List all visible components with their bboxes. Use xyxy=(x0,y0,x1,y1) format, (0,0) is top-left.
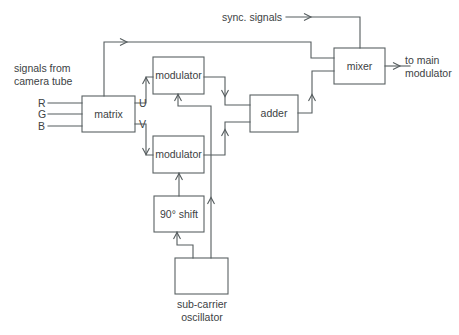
label-sync-signals: sync. signals xyxy=(222,11,282,24)
label-input-b: B xyxy=(38,120,45,132)
label-input-g: G xyxy=(38,108,46,120)
diagram-wiring xyxy=(0,0,459,335)
label-source-caption-line2: camera tube xyxy=(14,75,72,88)
label-output-line1: to main xyxy=(405,54,439,67)
wire-sync-signals-to-mixer xyxy=(286,17,360,48)
block-90-shift[interactable] xyxy=(154,196,204,232)
block-adder[interactable] xyxy=(250,95,298,132)
label-source-caption-line1: signals from xyxy=(14,62,71,75)
block-diagram-canvas: matrix modulator modulator adder mixer 9… xyxy=(0,0,459,335)
label-oscillator-line1: sub-carrier xyxy=(171,298,233,311)
label-signal-u: U xyxy=(139,97,147,109)
label-output-line2: modulator xyxy=(405,67,452,80)
wire-modulator-u-to-adder xyxy=(204,77,250,105)
wire-mixer-feedback-to-matrix xyxy=(104,42,334,96)
wire-oscillator-to-modulator-u xyxy=(178,94,211,258)
block-modulator-u[interactable] xyxy=(153,57,204,94)
block-modulator-v[interactable] xyxy=(153,136,204,173)
block-mixer[interactable] xyxy=(334,48,385,84)
block-matrix[interactable] xyxy=(82,96,135,132)
wire-adder-to-mixer xyxy=(298,71,334,113)
block-sub-carrier-oscillator[interactable] xyxy=(175,258,228,294)
label-oscillator-line2: oscillator xyxy=(171,311,233,324)
label-signal-v: V xyxy=(139,118,146,130)
